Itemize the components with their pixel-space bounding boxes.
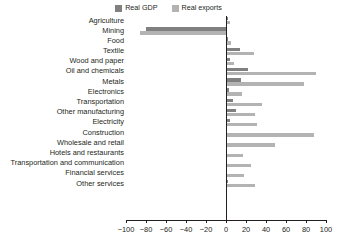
category-label: Food	[107, 36, 124, 46]
legend-swatch-real-exports	[172, 5, 179, 12]
x-tick	[326, 220, 327, 223]
bar-real-exports	[226, 174, 244, 177]
bar-real-gdp	[226, 48, 240, 51]
bar-real-gdp	[146, 27, 226, 30]
bar-real-exports	[226, 143, 275, 146]
x-tick-label: 60	[282, 225, 290, 234]
category-label: Oil and chemicals	[66, 66, 124, 76]
x-tick	[166, 220, 167, 223]
bar-row: Wholesale and retail	[0, 138, 337, 148]
category-label: Electronics	[88, 87, 124, 97]
x-tick-label: −60	[160, 225, 173, 234]
bar-row: Oil and chemicals	[0, 67, 337, 77]
x-tick	[286, 220, 287, 223]
bar-row: Electricity	[0, 118, 337, 128]
x-tick	[146, 220, 147, 223]
category-label: Metals	[102, 77, 124, 87]
bar-row: Financial services	[0, 169, 337, 179]
x-tick-label: 40	[262, 225, 270, 234]
plot-area: AgricultureMiningFoodTextileWood and pap…	[0, 16, 337, 220]
bar-row: Textile	[0, 47, 337, 57]
bar-real-exports	[226, 123, 257, 126]
x-tick-label: −20	[200, 225, 213, 234]
category-label: Financial services	[65, 168, 124, 178]
bar-real-gdp	[226, 99, 233, 102]
bar-row: Mining	[0, 26, 337, 36]
bar-real-exports	[226, 52, 254, 55]
x-tick-label: 20	[242, 225, 250, 234]
x-tick	[226, 220, 227, 223]
x-tick	[126, 220, 127, 223]
category-label: Wood and paper	[69, 56, 124, 66]
x-tick	[206, 220, 207, 223]
bar-row: Transportation and communication	[0, 159, 337, 169]
bar-row: Electronics	[0, 87, 337, 97]
category-label: Mining	[102, 26, 124, 36]
category-label: Agriculture	[89, 16, 124, 26]
x-tick	[306, 220, 307, 223]
bar-real-exports	[226, 113, 255, 116]
bar-row: Hotels and restaurants	[0, 148, 337, 158]
category-label: Other manufacturing	[57, 107, 124, 117]
x-tick-label: −80	[140, 225, 153, 234]
chart-legend: Real GDP Real exports	[0, 2, 337, 14]
category-label: Wholesale and retail	[57, 138, 124, 148]
bar-real-gdp	[226, 78, 241, 81]
x-tick-label: −100	[118, 225, 135, 234]
category-label: Textile	[103, 46, 124, 56]
bar-row: Construction	[0, 128, 337, 138]
x-tick-label: 0	[224, 225, 228, 234]
bar-real-exports	[226, 103, 262, 106]
bar-real-exports	[226, 72, 316, 75]
bar-chart: Real GDP Real exports AgricultureMiningF…	[0, 0, 337, 246]
bar-real-exports	[226, 92, 242, 95]
bar-real-exports	[140, 31, 226, 34]
category-label: Hotels and restaurants	[50, 148, 124, 158]
x-tick-label: 80	[302, 225, 310, 234]
category-label: Transportation	[77, 97, 124, 107]
legend-label-real-gdp: Real GDP	[125, 4, 157, 12]
bar-rows: AgricultureMiningFoodTextileWood and pap…	[0, 16, 337, 189]
bar-row: Food	[0, 36, 337, 46]
x-tick-label: −40	[180, 225, 193, 234]
zero-axis-line	[226, 16, 227, 220]
x-tick	[246, 220, 247, 223]
bar-row: Metals	[0, 77, 337, 87]
bar-real-gdp	[226, 68, 248, 71]
x-tick-label: 100	[320, 225, 332, 234]
bar-row: Other manufacturing	[0, 108, 337, 118]
category-label: Transportation and communication	[10, 158, 124, 168]
legend-label-real-exports: Real exports	[182, 4, 222, 12]
bar-real-exports	[226, 184, 255, 187]
x-tick	[266, 220, 267, 223]
x-tick	[186, 220, 187, 223]
category-label: Electricity	[92, 117, 124, 127]
bar-real-exports	[226, 154, 243, 157]
bar-row: Agriculture	[0, 16, 337, 26]
legend-swatch-real-gdp	[115, 5, 122, 12]
bar-real-exports	[226, 164, 251, 167]
bar-real-exports	[226, 82, 304, 85]
legend-item-real-gdp: Real GDP	[115, 4, 157, 12]
bar-row: Wood and paper	[0, 57, 337, 67]
bar-row: Transportation	[0, 98, 337, 108]
bar-real-exports	[226, 62, 234, 65]
bar-real-exports	[226, 133, 314, 136]
category-label: Construction	[83, 128, 125, 138]
bar-real-gdp	[226, 109, 236, 112]
category-label: Other services	[76, 179, 124, 189]
bar-row: Other services	[0, 179, 337, 189]
legend-item-real-exports: Real exports	[172, 4, 222, 12]
